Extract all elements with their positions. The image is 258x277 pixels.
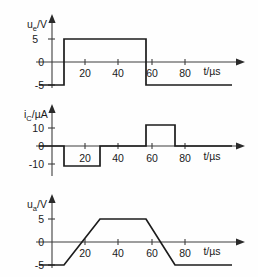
y-tick-label-ic-1: 0 xyxy=(38,140,44,152)
x-axis-title-ic: t/µs xyxy=(203,150,220,162)
x-axis-arrow-ua xyxy=(236,238,245,245)
waveform-figure: ue/V 5 0 -5 20 40 60 80 t/µs xyxy=(0,0,258,277)
y-axis-arrow-ue xyxy=(48,14,55,23)
chart-svg-ic: iC/µA 10 0 -10 20 40 60 80 t/µs xyxy=(0,92,258,184)
x-axis-arrow-ue xyxy=(236,58,245,65)
x-tick-label-ua-40: 40 xyxy=(112,247,124,259)
x-axis-arrow-ic xyxy=(236,142,245,149)
y-axis-title-ue-unit: /V xyxy=(37,18,47,30)
y-tick-label-ue-1: 0 xyxy=(38,56,44,68)
y-axis-title-ua: ua/V xyxy=(27,198,47,213)
y-tick-label-ue-2: -5 xyxy=(35,79,44,91)
chart-panel-ua: ua/V 5 0 -5 20 40 60 80 t/µs xyxy=(0,184,258,277)
x-tick-label-ic-80: 80 xyxy=(179,152,191,164)
chart-panel-ue: ue/V 5 0 -5 20 40 60 80 t/µs xyxy=(0,0,258,92)
y-tick-label-ua-1: 0 xyxy=(38,236,44,248)
y-tick-label-ic-2: -10 xyxy=(29,158,44,170)
x-tick-label-ua-80: 80 xyxy=(179,247,191,259)
y-tick-label-ua-2: -5 xyxy=(35,259,44,271)
y-axis-title-ue: ue/V xyxy=(27,18,47,33)
chart-svg-ua: ua/V 5 0 -5 20 40 60 80 t/µs xyxy=(0,184,258,277)
x-tick-label-ua-60: 60 xyxy=(146,247,158,259)
x-tick-label-ue-60: 60 xyxy=(146,67,158,79)
x-tick-label-ue-20: 20 xyxy=(79,67,91,79)
x-axis-title-ue: t/µs xyxy=(203,65,220,77)
chart-svg-ue: ue/V 5 0 -5 20 40 60 80 t/µs xyxy=(0,0,258,92)
x-tick-label-ue-80: 80 xyxy=(179,67,191,79)
x-tick-label-ua-20: 20 xyxy=(79,247,91,259)
y-axis-title-ic: iC/µA xyxy=(24,108,48,123)
y-tick-label-ic-0: 10 xyxy=(32,122,44,134)
y-axis-arrow-ua xyxy=(48,194,55,203)
y-tick-label-ue-0: 5 xyxy=(32,33,38,45)
y-axis-arrow-ic xyxy=(48,104,55,113)
x-axis-title-ua: t/µs xyxy=(203,245,220,257)
chart-panel-ic: iC/µA 10 0 -10 20 40 60 80 t/µs xyxy=(0,92,258,184)
y-axis-title-ua-unit: /V xyxy=(37,198,47,210)
y-tick-label-ua-0: 5 xyxy=(38,213,44,225)
x-tick-label-ic-20: 20 xyxy=(79,152,91,164)
y-axis-title-ic-unit: /µA xyxy=(32,108,48,120)
x-tick-label-ic-60: 60 xyxy=(146,152,158,164)
x-tick-label-ic-40: 40 xyxy=(112,152,124,164)
x-tick-label-ue-40: 40 xyxy=(112,67,124,79)
